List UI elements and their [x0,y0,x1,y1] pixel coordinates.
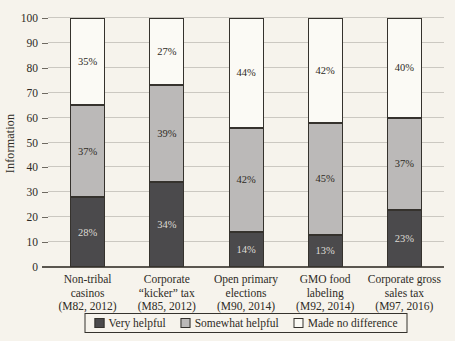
y-tick-label: 10 [4,236,38,248]
legend-swatch [95,318,105,328]
bar-segment: 37% [70,105,105,197]
legend-label: Somewhat helpful [195,317,279,329]
y-tick-label: 40 [4,161,38,173]
y-tick-label: 80 [4,62,38,74]
bar-segment: 39% [149,85,184,182]
legend-item: Somewhat helpful [181,317,279,329]
y-tick-label: 50 [4,137,38,149]
y-tick-label: 60 [4,112,38,124]
bar-segment: 45% [308,123,343,235]
y-axis: 0102030405060708090100 [0,18,48,267]
bar-segment: 13% [308,235,343,267]
y-tick-label: 90 [4,37,38,49]
bar-segment: 27% [149,18,184,85]
x-tick-label-line: sales tax [357,287,451,301]
y-tick-label: 70 [4,87,38,99]
bar-segment: 42% [308,18,343,123]
bar-segment: 40% [387,18,422,118]
y-tick-label: 30 [4,186,38,198]
bar-segment: 44% [229,18,264,128]
bar-segment: 34% [149,182,184,267]
y-tick-label: 100 [4,12,38,24]
figure-stacked-bar-chart: Information 0102030405060708090100 28%37… [0,0,455,341]
plot-area: 28%37%35%34%39%27%14%42%44%13%45%42%23%3… [48,18,444,267]
legend-label: Made no difference [308,317,398,329]
bar-segment: 35% [70,18,105,105]
x-tick-label-line: (M97, 2016) [357,300,451,314]
legend-item: Very helpful [95,317,166,329]
bar-segment: 23% [387,210,422,267]
legend-swatch [294,318,304,328]
y-tick-label: 0 [4,261,38,273]
x-tick-label-line: Corporate gross [357,273,451,287]
y-tick-label: 20 [4,211,38,223]
bar-segment: 42% [229,128,264,233]
x-tick-label: Corporate grosssales tax(M97, 2016) [357,273,451,314]
bar-segment: 37% [387,118,422,210]
legend-label: Very helpful [109,317,166,329]
bar-segment: 14% [229,232,264,267]
legend: Very helpfulSomewhat helpfulMade no diff… [85,313,408,333]
legend-swatch [181,318,191,328]
bar-segment: 28% [70,197,105,267]
legend-item: Made no difference [294,317,398,329]
